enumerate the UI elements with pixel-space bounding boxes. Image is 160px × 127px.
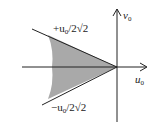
upper-boundary-label: +u0/2√2 — [53, 22, 88, 36]
vertical-axis-label: v0 — [123, 9, 132, 23]
wedge-diagram: v0 u0 +u0/2√2 −u0/2√2 — [0, 0, 160, 127]
horizontal-axis-label: u0 — [135, 73, 145, 87]
lower-boundary-label: −u0/2√2 — [51, 101, 86, 115]
